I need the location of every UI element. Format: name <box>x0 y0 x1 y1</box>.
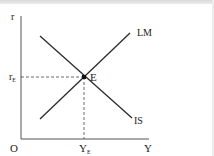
is-label: IS <box>134 115 143 126</box>
origin-label: O <box>10 142 18 154</box>
equilibrium-label: E <box>90 71 97 83</box>
is-lm-diagram: r rE E LM IS O YE Y <box>0 0 214 156</box>
equilibrium-point <box>82 75 86 79</box>
lm-label: LM <box>137 27 152 38</box>
y-axis-label: r <box>11 11 15 22</box>
ye-label: YE <box>79 142 91 155</box>
re-label: rE <box>9 71 16 83</box>
x-axis-label: Y <box>144 142 152 154</box>
